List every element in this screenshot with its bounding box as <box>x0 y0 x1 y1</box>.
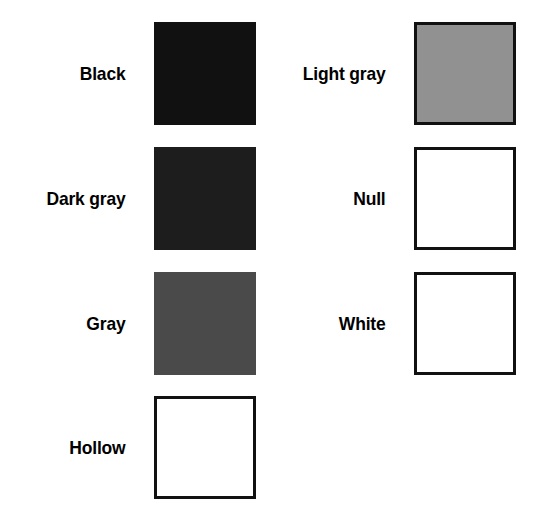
symbol-fill-legend: Black Dark gray Gray Hollow Light gray N… <box>0 0 533 528</box>
legend-label-black: Black <box>12 64 154 84</box>
legend-item-empty <box>259 396 516 499</box>
swatch-black[interactable] <box>154 22 256 125</box>
swatch-null[interactable] <box>414 147 516 250</box>
legend-item-null[interactable]: Null <box>259 147 516 250</box>
swatch-hollow[interactable] <box>154 396 256 499</box>
legend-label-hollow: Hollow <box>12 438 154 458</box>
legend-label-dark-gray: Dark gray <box>12 189 154 209</box>
legend-item-black[interactable]: Black <box>0 22 256 125</box>
swatch-dark-gray[interactable] <box>154 147 256 250</box>
legend-item-gray[interactable]: Gray <box>0 272 256 375</box>
legend-label-gray: Gray <box>12 314 154 334</box>
swatch-white[interactable] <box>414 272 516 375</box>
legend-label-light-gray: Light gray <box>271 64 414 84</box>
swatch-light-gray[interactable] <box>414 22 516 125</box>
swatch-gray[interactable] <box>154 272 256 375</box>
legend-item-light-gray[interactable]: Light gray <box>259 22 516 125</box>
legend-item-white[interactable]: White <box>259 272 516 375</box>
legend-label-white: White <box>271 314 414 334</box>
legend-label-null: Null <box>271 189 414 209</box>
legend-item-hollow[interactable]: Hollow <box>0 396 256 499</box>
legend-item-dark-gray[interactable]: Dark gray <box>0 147 256 250</box>
